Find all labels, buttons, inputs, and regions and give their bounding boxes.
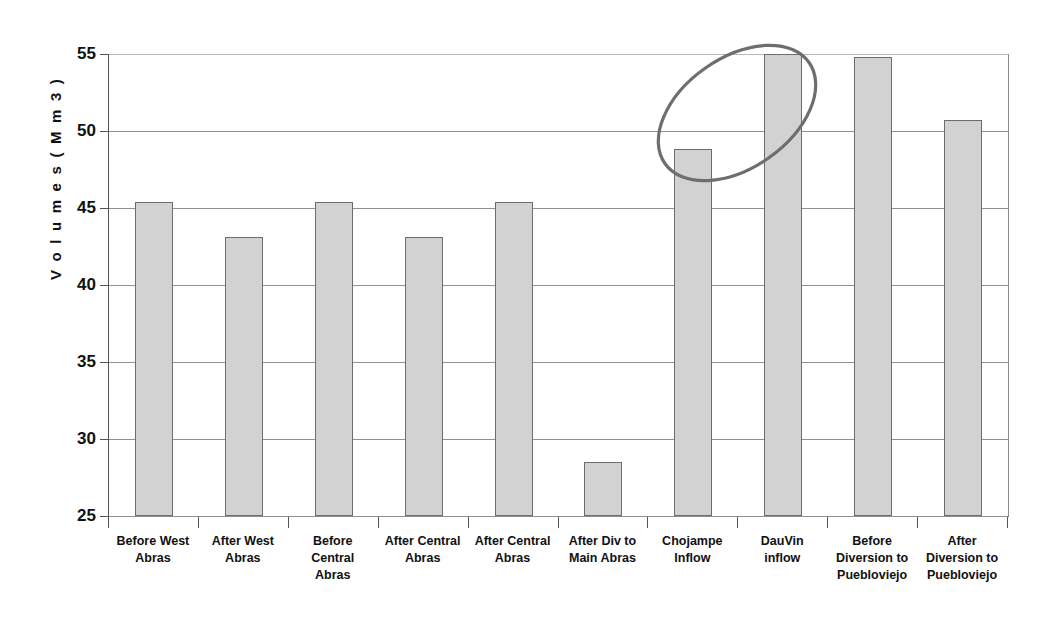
x-tick-mark bbox=[108, 517, 109, 528]
y-tick-label: 55 bbox=[54, 44, 96, 64]
x-axis-label-line: Before West bbox=[108, 533, 198, 550]
plot-area bbox=[108, 54, 1009, 517]
x-axis-label-line: Diversion to bbox=[827, 550, 917, 567]
bar bbox=[674, 149, 712, 516]
x-axis-label: Before WestAbras bbox=[108, 533, 198, 567]
x-axis-label-line: After Central bbox=[468, 533, 558, 550]
x-axis-label-line: Puebloviejo bbox=[917, 567, 1007, 584]
x-tick-mark bbox=[1007, 517, 1008, 528]
y-tick-mark bbox=[100, 285, 108, 286]
gridline bbox=[109, 54, 1008, 55]
x-axis-label: BeforeDiversion toPuebloviejo bbox=[827, 533, 917, 584]
x-axis-label-line: After bbox=[917, 533, 1007, 550]
x-tick-mark bbox=[917, 517, 918, 528]
y-tick-label: 30 bbox=[54, 429, 96, 449]
x-tick-mark bbox=[737, 517, 738, 528]
x-tick-mark bbox=[827, 517, 828, 528]
x-axis-label-line: Abras bbox=[378, 550, 468, 567]
y-tick-label: 40 bbox=[54, 275, 96, 295]
bar bbox=[854, 57, 892, 516]
x-axis-label-line: Inflow bbox=[647, 550, 737, 567]
x-axis-label: After CentralAbras bbox=[468, 533, 558, 567]
y-tick-mark bbox=[100, 131, 108, 132]
x-tick-mark bbox=[647, 517, 648, 528]
x-axis-label-line: Puebloviejo bbox=[827, 567, 917, 584]
y-tick-mark bbox=[100, 516, 108, 517]
y-axis-ticks: 25303540455055 bbox=[0, 54, 108, 516]
x-axis-label-line: Before bbox=[288, 533, 378, 550]
x-axis-label-line: Main Abras bbox=[558, 550, 648, 567]
x-axis-label-line: After Div to bbox=[558, 533, 648, 550]
bar bbox=[225, 237, 263, 516]
bar bbox=[944, 120, 982, 516]
x-axis-labels: Before WestAbrasAfter WestAbrasBeforeCen… bbox=[108, 533, 1008, 633]
x-axis-label-line: Before bbox=[827, 533, 917, 550]
x-tick-mark bbox=[378, 517, 379, 528]
x-axis-label-line: Abras bbox=[288, 567, 378, 584]
x-axis-label: DauVininflow bbox=[737, 533, 827, 567]
y-tick-mark bbox=[100, 208, 108, 209]
x-axis-label-line: Central bbox=[288, 550, 378, 567]
x-axis-label: BeforeCentralAbras bbox=[288, 533, 378, 584]
y-tick-mark bbox=[100, 439, 108, 440]
x-axis-label-line: inflow bbox=[737, 550, 827, 567]
x-axis-label-line: Diversion to bbox=[917, 550, 1007, 567]
bar-chart: V o l u m e s ( M m 3 ) 25303540455055 B… bbox=[0, 0, 1059, 640]
bar bbox=[135, 202, 173, 516]
bar bbox=[764, 54, 802, 516]
x-axis-label-line: Abras bbox=[198, 550, 288, 567]
y-tick-label: 45 bbox=[54, 198, 96, 218]
x-axis-label-line: Abras bbox=[108, 550, 198, 567]
y-tick-label: 25 bbox=[54, 506, 96, 526]
x-axis-label: ChojampeInflow bbox=[647, 533, 737, 567]
bar bbox=[584, 462, 622, 516]
bar bbox=[495, 202, 533, 516]
x-tick-mark bbox=[288, 517, 289, 528]
x-tick-mark bbox=[558, 517, 559, 528]
y-tick-mark bbox=[100, 54, 108, 55]
y-tick-label: 35 bbox=[54, 352, 96, 372]
x-axis-label: After Div toMain Abras bbox=[558, 533, 648, 567]
bar bbox=[405, 237, 443, 516]
x-axis-label-line: Abras bbox=[468, 550, 558, 567]
x-axis-label-line: After West bbox=[198, 533, 288, 550]
bar bbox=[315, 202, 353, 516]
x-axis-label: AfterDiversion toPuebloviejo bbox=[917, 533, 1007, 584]
x-axis-label-line: DauVin bbox=[737, 533, 827, 550]
x-axis-label: After CentralAbras bbox=[378, 533, 468, 567]
x-axis-label: After WestAbras bbox=[198, 533, 288, 567]
x-tick-mark bbox=[468, 517, 469, 528]
x-axis-ticks bbox=[108, 517, 1008, 529]
x-axis-label-line: After Central bbox=[378, 533, 468, 550]
y-tick-label: 50 bbox=[54, 121, 96, 141]
y-tick-mark bbox=[100, 362, 108, 363]
x-axis-label-line: Chojampe bbox=[647, 533, 737, 550]
x-tick-mark bbox=[198, 517, 199, 528]
